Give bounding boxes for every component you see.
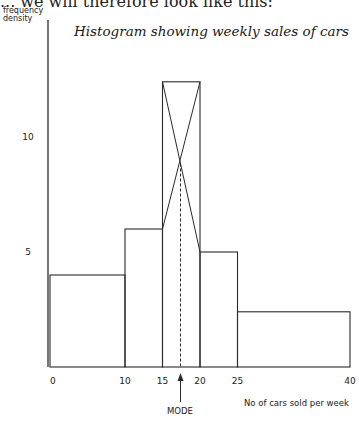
histogram-bar (238, 312, 351, 367)
histogram-bar (125, 229, 163, 367)
mode-label: MODE (167, 406, 193, 416)
mode-diagonal-line (163, 82, 201, 252)
arrow-up-icon (178, 373, 184, 381)
x-axis-label: No of cars sold per week (244, 398, 349, 408)
mode-diagonal-line (163, 82, 201, 229)
x-tick-label: 20 (194, 376, 206, 386)
y-tick-label: 10 (22, 132, 34, 142)
histogram-bar (50, 275, 125, 367)
x-tick-label: 10 (119, 376, 131, 386)
x-tick-label: 25 (232, 376, 243, 386)
histogram-chart: 01015202540510 (0, 0, 359, 421)
x-tick-label: 0 (50, 376, 56, 386)
x-tick-label: 15 (157, 376, 168, 386)
y-tick-label: 5 (25, 247, 31, 257)
x-tick-label: 40 (344, 376, 356, 386)
histogram-bar (200, 252, 238, 367)
